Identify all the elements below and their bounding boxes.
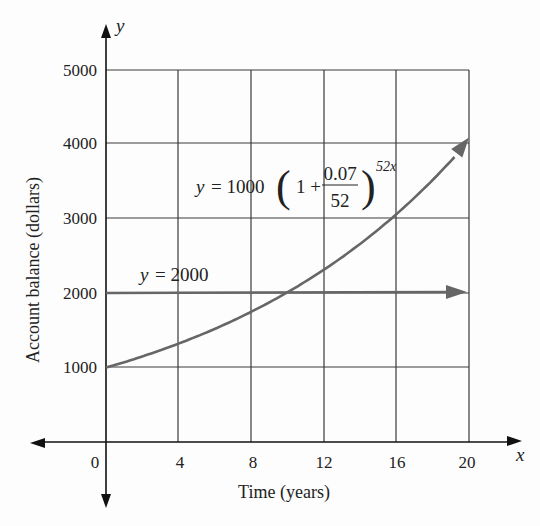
x-axis-var: x — [515, 444, 525, 465]
right-paren: ) — [361, 162, 376, 211]
left-paren: ( — [276, 162, 291, 211]
y-tick: 2000 — [63, 284, 97, 303]
y-tick-labels: 5000 4000 3000 2000 1000 — [63, 61, 97, 377]
y-tick: 3000 — [63, 209, 97, 228]
chart: y x 5000 4000 3000 2000 1000 0 4 8 12 16… — [0, 0, 540, 526]
y-axis-up-arrow-icon — [101, 24, 111, 38]
x-tick: 12 — [316, 453, 333, 472]
y-axis-down-arrow-icon — [101, 494, 111, 508]
hline-var: y — [138, 264, 149, 285]
y-tick: 4000 — [63, 134, 97, 153]
x-tick: 20 — [459, 453, 476, 472]
y-axis-title: Account balance (dollars) — [23, 177, 44, 363]
y-tick: 1000 — [63, 358, 97, 377]
x-tick: 8 — [249, 453, 258, 472]
x-axis-title: Time (years) — [238, 482, 330, 503]
x-axis-left-arrow-icon — [30, 438, 45, 448]
hline-label: y = 2000 — [138, 264, 208, 285]
eq-exponent: 52x — [376, 159, 397, 174]
equation-label: y = 1000 ( 1 + 0.07 52 ) 52x — [193, 158, 397, 214]
eq-numerator: 0.07 — [323, 163, 356, 184]
hline-arrow-icon — [446, 285, 467, 299]
eq-lhs-var: y — [194, 176, 205, 197]
x-tick: 4 — [176, 453, 185, 472]
x-tick: 16 — [389, 453, 406, 472]
eq-denominator: 52 — [331, 190, 350, 211]
eq-one-plus: 1 + — [296, 176, 321, 197]
grid — [106, 70, 469, 442]
x-tick-labels: 0 4 8 12 16 20 — [91, 453, 476, 472]
eq-lhs-rest: = 1000 — [211, 176, 264, 197]
hline-rest: = 2000 — [155, 264, 208, 285]
axes — [30, 24, 522, 508]
y-axis-var: y — [114, 15, 125, 36]
curve-arrow-icon — [451, 137, 469, 157]
x-tick: 0 — [91, 453, 100, 472]
y-tick: 5000 — [63, 61, 97, 80]
